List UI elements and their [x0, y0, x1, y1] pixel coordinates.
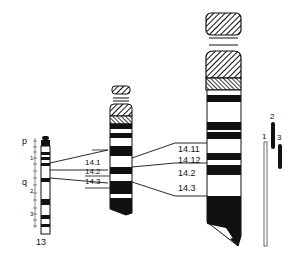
large-chromosome [206, 13, 241, 246]
region-label-3: 3 [30, 211, 33, 217]
band-label-14-12: 14.12 [178, 156, 201, 165]
region-label-2: 2 [30, 188, 33, 194]
chromosome-diagram [0, 0, 295, 268]
deletion-label-3: 3 [277, 134, 281, 142]
region-label-1: 1 [30, 155, 33, 161]
arm-label-p: p [22, 137, 27, 146]
band-label-14-2: 14.2 [85, 168, 101, 176]
band-label-14-1: 14.1 [85, 159, 101, 167]
band-label-14-3-large: 14.3 [178, 184, 196, 193]
arm-label-q: q [22, 178, 27, 187]
band-label-14-11: 14.11 [178, 145, 200, 154]
chromosome-name: 13 [36, 238, 46, 247]
band-label-14-2-large: 14.2 [178, 169, 196, 178]
band-label-14-3: 14.3 [85, 178, 101, 186]
deletion-label-1: 1 [262, 133, 266, 141]
deletion-label-2: 2 [270, 113, 274, 121]
